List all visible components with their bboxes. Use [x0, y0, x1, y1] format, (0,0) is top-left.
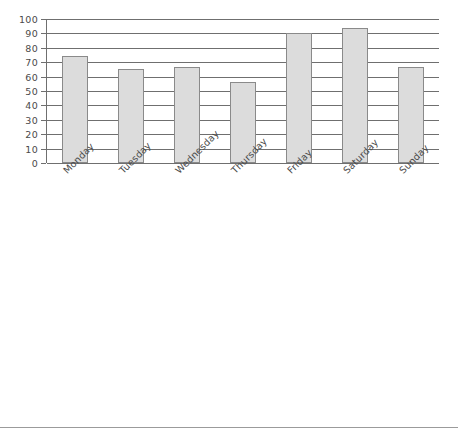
gridline — [47, 48, 439, 49]
y-axis-tick-label: 70 — [0, 57, 38, 68]
gridline — [47, 62, 439, 63]
y-axis-tick-label: 60 — [0, 71, 38, 82]
gridline — [47, 19, 439, 20]
gridline — [47, 33, 439, 34]
y-axis-tick-label: 0 — [0, 158, 38, 169]
bar-chart-figure: 100 90 80 70 60 50 40 30 20 10 0 Monday … — [0, 0, 458, 215]
y-axis-tick-label: 80 — [0, 42, 38, 53]
y-axis-tick-mark — [41, 48, 46, 49]
y-axis-tick-label: 100 — [0, 14, 38, 25]
y-axis-tick-label: 20 — [0, 129, 38, 140]
y-axis-tick-mark — [41, 91, 46, 92]
y-axis-tick-mark — [41, 77, 46, 78]
y-axis-tick-mark — [41, 120, 46, 121]
y-axis-tick-label: 40 — [0, 100, 38, 111]
y-axis-tick-mark — [41, 33, 46, 34]
y-axis-tick-label: 90 — [0, 28, 38, 39]
y-axis-tick-mark — [41, 105, 46, 106]
bar-friday — [286, 33, 312, 163]
plot-area — [46, 19, 438, 163]
y-axis-tick-label: 30 — [0, 114, 38, 125]
bar-saturday — [342, 28, 368, 163]
page-bottom-rule — [0, 427, 458, 428]
y-axis-tick-label: 50 — [0, 86, 38, 97]
y-axis-tick-mark — [41, 163, 46, 164]
page-canvas: 100 90 80 70 60 50 40 30 20 10 0 Monday … — [0, 0, 458, 432]
y-axis-tick-mark — [41, 149, 46, 150]
x-axis-category-labels: Monday Tuesday Wednesday Thursday Friday… — [46, 164, 438, 214]
y-axis-tick-mark — [41, 62, 46, 63]
gridline — [47, 77, 439, 78]
y-axis-tick-mark — [41, 19, 46, 20]
y-axis-tick-labels: 100 90 80 70 60 50 40 30 20 10 0 — [0, 0, 38, 215]
y-axis-tick-mark — [41, 134, 46, 135]
y-axis-tick-label: 10 — [0, 143, 38, 154]
